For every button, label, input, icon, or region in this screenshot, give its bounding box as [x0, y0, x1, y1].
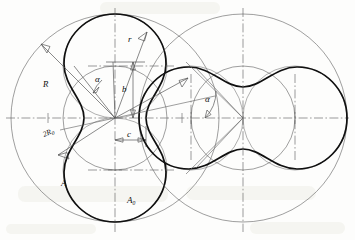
label-r: r	[128, 34, 132, 44]
label-c: c	[127, 129, 131, 139]
label-2R0: 2R0	[41, 126, 55, 139]
label-alpha-right: α	[205, 94, 210, 104]
right-assembly: α	[139, 8, 347, 232]
label-alpha-left: α	[95, 74, 100, 84]
figure-canvas: R 2R0 r b	[0, 0, 355, 240]
label-R: R	[42, 79, 49, 89]
geometry-drawing: R 2R0 r b	[0, 0, 355, 240]
dimension-r	[115, 32, 147, 118]
label-A: A	[60, 178, 67, 188]
label-b: b	[122, 84, 127, 94]
dimension-R	[41, 44, 115, 118]
